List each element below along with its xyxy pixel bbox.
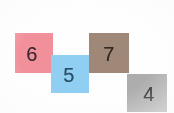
brown-square-label: 7 (103, 44, 115, 64)
pink-square-label: 6 (26, 44, 38, 64)
blue-square[interactable]: 5 (51, 55, 89, 93)
gray-square-label: 4 (143, 84, 155, 104)
pink-square[interactable]: 6 (15, 33, 53, 73)
blue-square-label: 5 (63, 65, 75, 85)
gray-square[interactable]: 4 (127, 74, 167, 112)
squares-canvas: 6 5 7 4 (0, 0, 174, 113)
brown-square[interactable]: 7 (89, 33, 129, 73)
